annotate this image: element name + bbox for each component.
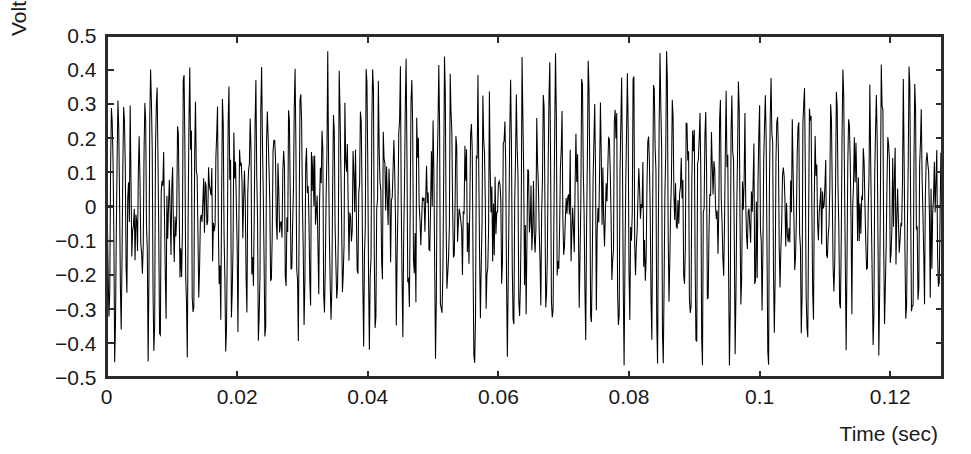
x-tick-label-1: 0.02 — [217, 385, 258, 408]
y-tick-label-0: −0.5 — [55, 366, 96, 389]
y-tick-label-4: −0.1 — [55, 229, 96, 252]
y-tick-label-8: 0.3 — [67, 92, 96, 115]
y-tick-label-1: −0.4 — [55, 332, 97, 355]
chart-figure: 00.020.040.060.080.10.12 −0.5−0.4−0.3−0.… — [0, 0, 971, 454]
voltage-time-plot: 00.020.040.060.080.10.12 −0.5−0.4−0.3−0.… — [0, 0, 971, 454]
y-tick-label-6: 0.1 — [67, 161, 96, 184]
x-tick-label-3: 0.06 — [478, 385, 519, 408]
y-tick-label-10: 0.5 — [67, 24, 96, 47]
x-tick-label-6: 0.12 — [870, 385, 911, 408]
y-tick-label-2: −0.3 — [55, 298, 96, 321]
y-tick-label-7: 0.2 — [67, 127, 96, 150]
x-tick-label-2: 0.04 — [347, 385, 388, 408]
x-tick-label-4: 0.08 — [609, 385, 650, 408]
y-tick-label-3: −0.2 — [55, 263, 96, 286]
x-tick-label-5: 0.1 — [745, 385, 774, 408]
y-tick-label-9: 0.4 — [67, 58, 97, 81]
x-tick-label-0: 0 — [101, 385, 113, 408]
x-axis-title: Time (sec) — [840, 422, 938, 445]
y-axis-title: Voltage — [7, 0, 30, 36]
y-tick-label-5: 0 — [85, 195, 97, 218]
